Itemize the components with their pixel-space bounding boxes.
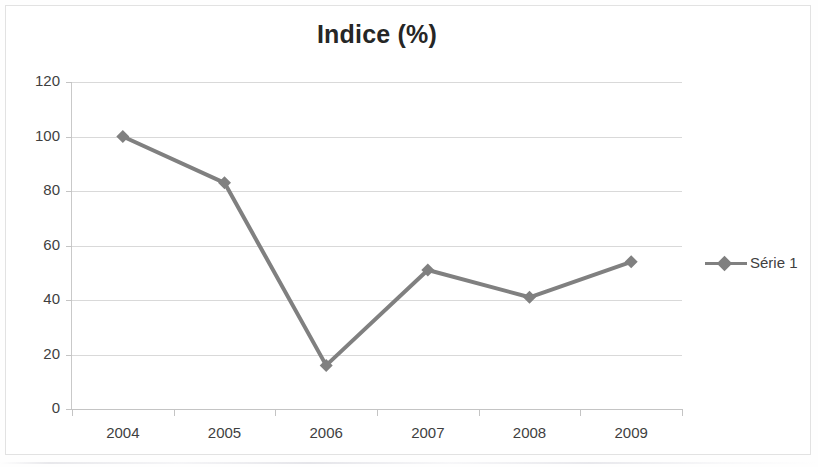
y-tick-120 (66, 82, 72, 83)
y-tick-label-20: 20 (43, 345, 60, 362)
gridline-60 (72, 246, 682, 247)
y-tick-20 (66, 355, 72, 356)
gridline-40 (72, 300, 682, 301)
y-axis-labels: 020406080100120 (0, 0, 60, 467)
y-tick-label-80: 80 (43, 181, 60, 198)
chart-legend: Série 1 (705, 254, 798, 271)
gridline-20 (72, 355, 682, 356)
y-tick-label-60: 60 (43, 236, 60, 253)
x-tick-1 (174, 409, 175, 416)
y-tick-label-0: 0 (52, 399, 60, 416)
y-tick-100 (66, 137, 72, 138)
chart-title: Indice (%) (72, 20, 682, 49)
y-tick-80 (66, 191, 72, 192)
gridline-80 (72, 191, 682, 192)
x-tick-label-2007: 2007 (377, 424, 479, 441)
y-tick-label-120: 120 (35, 72, 60, 89)
plot-area (72, 82, 682, 409)
x-tick-label-2004: 2004 (72, 424, 174, 441)
gridline-120 (72, 82, 682, 83)
x-tick-6 (682, 409, 683, 416)
x-tick-4 (479, 409, 480, 416)
x-tick-label-2006: 2006 (275, 424, 377, 441)
legend-marker-icon (705, 256, 747, 270)
x-tick-label-2005: 2005 (174, 424, 276, 441)
x-tick-label-2008: 2008 (479, 424, 581, 441)
x-tick-0 (72, 409, 73, 416)
x-tick-5 (580, 409, 581, 416)
chart-container: Indice (%) 020406080100120 2004200520062… (0, 0, 818, 467)
x-tick-label-2009: 2009 (580, 424, 682, 441)
y-tick-60 (66, 246, 72, 247)
legend-label-serie-1: Série 1 (750, 254, 798, 271)
x-tick-3 (377, 409, 378, 416)
y-tick-0 (66, 409, 72, 410)
gridline-100 (72, 137, 682, 138)
y-tick-label-100: 100 (35, 127, 60, 144)
y-tick-40 (66, 300, 72, 301)
x-tick-2 (275, 409, 276, 416)
scan-artifact (0, 462, 818, 464)
y-tick-label-40: 40 (43, 290, 60, 307)
